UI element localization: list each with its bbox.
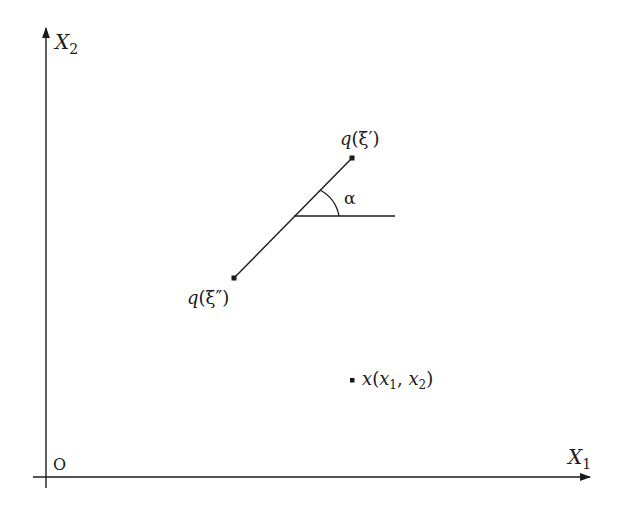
point-x-marker bbox=[350, 378, 355, 383]
segment-start-point bbox=[232, 276, 237, 281]
coordinate-diagram: X2 X1 O q(ξ′) q(ξ″) α x(x1, x2) bbox=[0, 0, 623, 506]
x2-axis-label: X2 bbox=[53, 30, 78, 57]
point-x-label: x(x1, x2) bbox=[362, 368, 433, 392]
angle-label: α bbox=[344, 188, 356, 208]
origin-label: O bbox=[53, 455, 66, 474]
segment-end-point bbox=[350, 156, 355, 161]
segment-line bbox=[234, 158, 352, 278]
segment-end-label: q(ξ′) bbox=[340, 128, 380, 149]
angle-arc bbox=[320, 190, 339, 216]
segment-start-label: q(ξ″) bbox=[187, 287, 229, 308]
x1-axis-label: X1 bbox=[566, 445, 591, 472]
